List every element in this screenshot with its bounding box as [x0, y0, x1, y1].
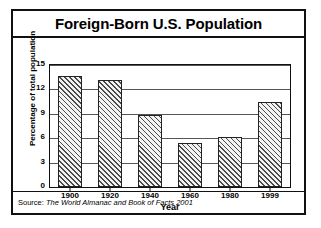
source-note: Source: The World Almanac and Book of Fa…: [13, 198, 193, 207]
chart-body: Percentage of total population 03691215 …: [13, 38, 304, 215]
bar-series: [50, 65, 290, 187]
bar: [58, 76, 82, 187]
plot-area: [49, 64, 291, 188]
bar: [178, 143, 202, 187]
y-tick-label: 9: [41, 109, 45, 117]
y-tick-label: 15: [36, 60, 45, 68]
bar: [98, 80, 122, 187]
chart-title-band: Foreign-Born U.S. Population: [13, 11, 304, 38]
bar: [258, 102, 282, 187]
y-tick-label: 3: [41, 158, 45, 166]
y-tick-label: 12: [36, 84, 45, 92]
bar: [218, 137, 242, 187]
bar: [138, 115, 162, 187]
y-tick-label: 0: [41, 182, 45, 190]
source-band: Source: The World Almanac and Book of Fa…: [13, 191, 304, 213]
source-prefix: Source:: [18, 198, 46, 207]
y-axis-tick-labels: 03691215: [29, 64, 45, 186]
page-title: Foreign-Born U.S. Population: [55, 15, 262, 32]
chart-figure: Foreign-Born U.S. Population Percentage …: [11, 9, 306, 215]
y-tick-label: 6: [41, 133, 45, 141]
source-citation: The World Almanac and Book of Facts 2001: [46, 198, 193, 207]
